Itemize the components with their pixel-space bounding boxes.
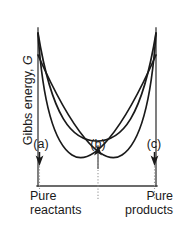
label-c: (c) xyxy=(147,137,162,151)
gibbs-energy-figure: Gibbs energy, G (a) (b) (c) Pure reactan… xyxy=(0,0,175,227)
x-axis-label-right: Pure products xyxy=(125,189,173,218)
label-a: (a) xyxy=(33,137,48,151)
x-axis-label-left: Pure reactants xyxy=(30,189,81,218)
curve-b-minimum-at-equilibrium xyxy=(38,33,156,141)
